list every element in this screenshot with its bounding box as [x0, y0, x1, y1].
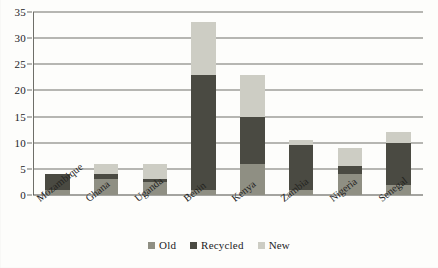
legend-label-recycled: Recycled	[201, 240, 244, 251]
y-tick-mark-25	[27, 64, 32, 65]
bar-segment-nigeria-recycled	[338, 166, 362, 174]
bars-layer	[33, 12, 423, 195]
legend-label-old: Old	[159, 240, 176, 251]
legend-swatch-icon-new	[258, 242, 265, 249]
y-tick-mark-20	[27, 90, 32, 91]
chart-plot-wrapper: 05101520253035 MozambiqueGhanaUgandaBeni…	[0, 0, 438, 268]
y-tick-mark-5	[27, 168, 32, 169]
bar-segment-kenya-new	[240, 75, 264, 117]
y-tick-mark-35	[27, 12, 32, 13]
bar-group-ghana	[94, 12, 118, 195]
y-tick-label-5: 5	[20, 163, 26, 174]
legend-swatch-icon-old	[148, 242, 155, 249]
bar-group-kenya	[240, 12, 264, 195]
bar-segment-senegal-new	[386, 132, 410, 142]
legend-item-recycled[interactable]: Recycled	[190, 240, 244, 251]
bar-segment-benin-recycled	[191, 75, 215, 190]
y-tick-mark-30	[27, 38, 32, 39]
bar-group-senegal	[386, 12, 410, 195]
y-tick-label-25: 25	[15, 59, 26, 70]
bar-group-uganda	[143, 12, 167, 195]
legend-item-new[interactable]: New	[258, 240, 290, 251]
bar-group-nigeria	[338, 12, 362, 195]
y-tick-mark-0	[27, 195, 32, 196]
y-tick-label-30: 30	[15, 33, 26, 44]
y-tick-label-10: 10	[15, 137, 26, 148]
y-tick-mark-15	[27, 116, 32, 117]
bar-segment-kenya-recycled	[240, 117, 264, 164]
stacked-bar-chart: 05101520253035 MozambiqueGhanaUgandaBeni…	[0, 0, 438, 268]
bar-segment-ghana-new	[94, 164, 118, 174]
bar-segment-ghana-recycled	[94, 174, 118, 179]
bar-group-benin	[191, 12, 215, 195]
bar-group-zambia	[289, 12, 313, 195]
plot-area	[33, 12, 423, 195]
y-tick-mark-10	[27, 142, 32, 143]
x-axis: MozambiqueGhanaUgandaBeninKenyaZambiaNig…	[33, 196, 423, 244]
bar-group-mozambique	[45, 12, 69, 195]
legend-label-new: New	[269, 240, 290, 251]
y-tick-label-20: 20	[15, 85, 26, 96]
bar-segment-benin-new	[191, 22, 215, 74]
legend-item-old[interactable]: Old	[148, 240, 176, 251]
y-axis: 05101520253035	[0, 0, 30, 268]
y-tick-label-0: 0	[20, 190, 26, 201]
bar-segment-nigeria-new	[338, 148, 362, 166]
bar-segment-zambia-new	[289, 140, 313, 145]
chart-legend: OldRecycledNew	[0, 240, 438, 251]
y-tick-label-35: 35	[15, 7, 26, 18]
y-tick-label-15: 15	[15, 111, 26, 122]
legend-swatch-icon-recycled	[190, 242, 197, 249]
